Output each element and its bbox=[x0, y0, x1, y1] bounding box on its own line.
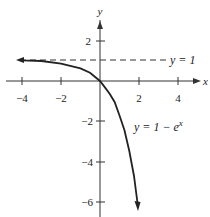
asymptote-label: y = 1 bbox=[169, 53, 195, 67]
y-tick-label: 2 bbox=[86, 35, 92, 47]
x-tick-label: 2 bbox=[136, 92, 142, 104]
x-tick-label: 4 bbox=[175, 92, 181, 104]
y-axis-label: y bbox=[97, 5, 103, 17]
curve-left-arrow-icon bbox=[16, 57, 24, 63]
curve-arrow-icon bbox=[135, 201, 141, 211]
y-axis-arrow-icon bbox=[97, 21, 103, 29]
curve bbox=[20, 60, 138, 203]
x-axis-arrow-icon bbox=[193, 78, 201, 84]
x-tick-label: −2 bbox=[55, 92, 67, 104]
chart: −4 −2 2 4 2 −2 −4 −6 x y y = 1 y = 1 − e… bbox=[0, 0, 210, 217]
y-tick-label: −2 bbox=[81, 115, 93, 127]
curve-label: y = 1 − ex bbox=[133, 118, 183, 134]
x-tick-label: −4 bbox=[16, 92, 28, 104]
x-axis-label: x bbox=[202, 75, 208, 87]
y-tick-label: −6 bbox=[81, 196, 93, 208]
y-tick-label: −4 bbox=[81, 156, 93, 168]
